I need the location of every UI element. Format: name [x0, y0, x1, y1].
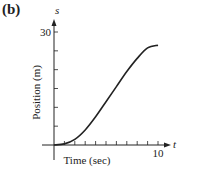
- x-tick-label-10: 10: [153, 147, 165, 159]
- axes: [42, 19, 171, 160]
- position-curve: [54, 45, 158, 145]
- y-axis-variable: s: [55, 4, 59, 16]
- x-axis-variable: t: [173, 138, 177, 150]
- y-tick-label-30: 30: [40, 26, 52, 38]
- y-axis-label: Position (m): [30, 65, 43, 120]
- position-time-chart: 30 10 s t Time (sec) Position (m): [0, 0, 203, 175]
- x-axis-label: Time (sec): [64, 154, 111, 167]
